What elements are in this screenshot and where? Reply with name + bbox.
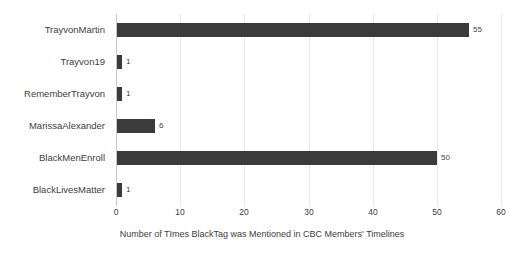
bar-label-blackmenenroll: 50 <box>441 154 450 162</box>
y-tick-label: BlackMenEnroll <box>0 142 105 174</box>
y-tick-label: RememberTrayvon <box>0 78 105 110</box>
bar-row: 1 <box>116 46 501 78</box>
x-tick-label: 60 <box>496 208 505 217</box>
bar-label-marissaalexander: 6 <box>159 122 163 130</box>
bar-blackmenenroll[interactable] <box>116 151 437 165</box>
x-tick-label: 20 <box>239 208 248 217</box>
x-tick-label: 30 <box>304 208 313 217</box>
x-tick-label: 10 <box>175 208 184 217</box>
gridline-60 <box>501 14 502 206</box>
bar-row: 1 <box>116 78 501 110</box>
bar-row: 1 <box>116 174 501 206</box>
bar-label-remembertrayvon: 1 <box>126 90 130 98</box>
y-tick-label: BlackLivesMatter <box>0 174 105 206</box>
bar-marissaalexander[interactable] <box>116 119 155 133</box>
bar-series: 55 1 1 6 50 1 <box>116 14 501 206</box>
x-tick-label: 50 <box>432 208 441 217</box>
bar-label-trayvon19: 1 <box>126 58 130 66</box>
bar-chart: 55 1 1 6 50 1 <box>0 0 524 253</box>
x-axis-title: Number of TImes BlackTag was Mentioned i… <box>0 230 524 239</box>
bar-trayvonmartin[interactable] <box>116 23 469 37</box>
y-tick-label: TrayvonMartin <box>0 14 105 46</box>
bar-label-trayvonmartin: 55 <box>473 26 482 34</box>
y-tick-label: Trayvon19 <box>0 46 105 78</box>
x-tick-label: 0 <box>114 208 119 217</box>
y-axis-tick-labels: TrayvonMartin Trayvon19 RememberTrayvon … <box>0 14 112 206</box>
bar-row: 55 <box>116 14 501 46</box>
x-axis-tick-labels: 0 10 20 30 40 50 60 <box>0 208 524 222</box>
x-tick-label: 40 <box>368 208 377 217</box>
bar-row: 50 <box>116 142 501 174</box>
y-axis-line <box>116 14 117 206</box>
y-tick-label: MarissaAlexander <box>0 110 105 142</box>
plot-area: 55 1 1 6 50 1 <box>116 14 501 206</box>
bar-row: 6 <box>116 110 501 142</box>
bar-label-blacklivesmatter: 1 <box>126 186 130 194</box>
